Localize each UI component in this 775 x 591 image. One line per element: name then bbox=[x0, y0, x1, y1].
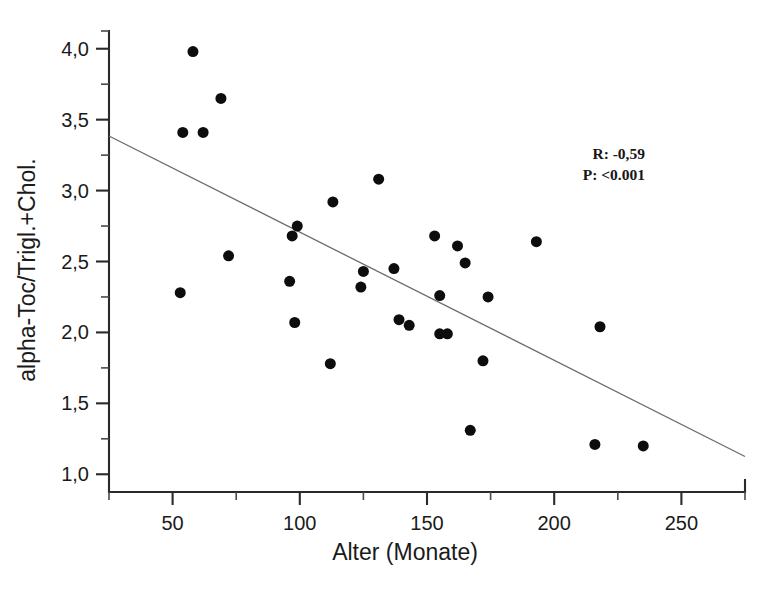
data-point bbox=[477, 355, 488, 366]
data-point bbox=[198, 127, 209, 138]
data-point bbox=[465, 425, 476, 436]
scatter-plot-figure: 1,01,52,02,53,03,54,0 50100150200250 R: … bbox=[0, 0, 775, 591]
data-point bbox=[289, 317, 300, 328]
data-point bbox=[327, 196, 338, 207]
data-point bbox=[358, 266, 369, 277]
data-point bbox=[223, 250, 234, 261]
y-tick-label: 4,0 bbox=[61, 38, 89, 60]
y-tick-label: 3,0 bbox=[61, 180, 89, 202]
y-axis-title: alpha-Toc/Trigl.+Chol. bbox=[14, 158, 40, 382]
data-point bbox=[394, 314, 405, 325]
data-point bbox=[287, 230, 298, 241]
data-point bbox=[177, 127, 188, 138]
data-point bbox=[388, 263, 399, 274]
data-point bbox=[404, 320, 415, 331]
y-axis: 1,01,52,02,53,03,54,0 bbox=[61, 31, 109, 485]
y-tick-label: 3,5 bbox=[61, 109, 89, 131]
data-point bbox=[325, 358, 336, 369]
y-tick-label: 1,0 bbox=[61, 463, 89, 485]
plot-canvas: 1,01,52,02,53,03,54,0 50100150200250 R: … bbox=[0, 0, 775, 591]
data-point bbox=[594, 321, 605, 332]
data-points bbox=[175, 46, 649, 451]
data-point bbox=[589, 439, 600, 450]
x-axis-title: Alter (Monate) bbox=[332, 539, 478, 565]
regression-line bbox=[109, 136, 745, 457]
data-point bbox=[452, 240, 463, 251]
data-point bbox=[460, 257, 471, 268]
data-point bbox=[531, 236, 542, 247]
data-point bbox=[215, 93, 226, 104]
data-point bbox=[638, 440, 649, 451]
y-tick-label: 1,5 bbox=[61, 392, 89, 414]
data-point bbox=[175, 287, 186, 298]
data-point bbox=[284, 276, 295, 287]
data-point bbox=[483, 291, 494, 302]
y-tick-label: 2,0 bbox=[61, 321, 89, 343]
data-point bbox=[373, 174, 384, 185]
data-point bbox=[429, 230, 440, 241]
x-tick-label: 100 bbox=[283, 512, 316, 534]
data-point bbox=[187, 46, 198, 57]
x-tick-label: 50 bbox=[161, 512, 183, 534]
x-tick-label: 200 bbox=[538, 512, 571, 534]
y-tick-label: 2,5 bbox=[61, 251, 89, 273]
correlation-coefficient-label: R: -0,59 bbox=[592, 145, 645, 162]
p-value-label: P: <0.001 bbox=[583, 166, 645, 183]
data-point bbox=[442, 328, 453, 339]
data-point bbox=[434, 290, 445, 301]
data-point bbox=[292, 221, 303, 232]
regression-trend-line bbox=[109, 136, 745, 457]
data-point bbox=[355, 282, 366, 293]
x-tick-label: 250 bbox=[665, 512, 698, 534]
x-tick-label: 150 bbox=[410, 512, 443, 534]
x-axis: 50100150200250 bbox=[109, 492, 745, 534]
